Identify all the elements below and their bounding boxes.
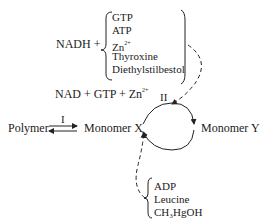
inhibitor-adp: ADP [154,180,176,192]
node-monomer-x: Monomer X [84,122,143,134]
step-label-ii: II [160,91,167,103]
inhibitor-leucine: Leucine [154,193,189,205]
effector-thyroxine: Thyroxine [112,50,158,62]
step-label-i: I [61,113,65,125]
diagram-lines [0,0,265,224]
node-polymer: Polymer [8,122,49,134]
effector-diethylstilbestol: Diethylstilbestol [112,63,185,75]
dashed-arrow-bottom [136,133,145,198]
inhibitor-ch3hgoh: CH₃HgOH [154,206,202,218]
cycle-upper-arc [143,103,194,124]
cycle-lower-arc [143,130,194,150]
effector-atp: ATP [112,24,132,36]
node-monomer-y: Monomer Y [201,122,260,134]
left-brace-top [101,12,112,80]
nadh-prefix: NADH + [56,38,100,50]
effector-gtp: GTP [112,11,133,23]
products-text: NAD + GTP + Zn2+ [55,84,148,100]
left-brace-bottom [144,178,152,218]
